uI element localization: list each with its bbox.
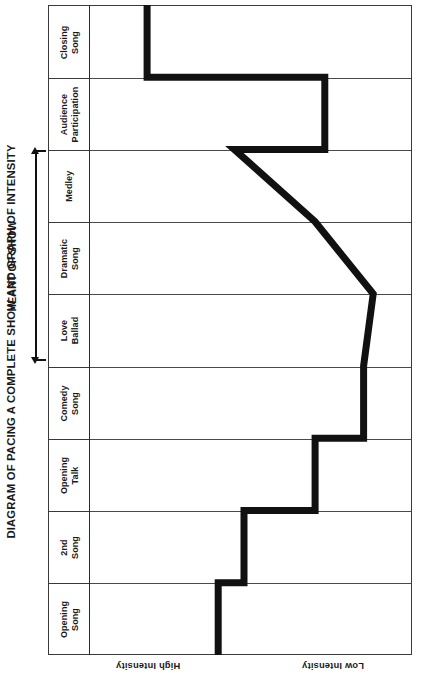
gridline [90, 439, 411, 440]
heart-of-show-bracket [26, 148, 46, 363]
segment-label-text: LoveBallad [59, 317, 80, 345]
segment-label-opening-song: OpeningSong [49, 584, 90, 656]
gridline [90, 222, 411, 223]
segment-label-medley: Medley [49, 150, 90, 222]
gridline [90, 294, 411, 295]
segment-label-text: Medley [64, 171, 75, 202]
segment-label-text: ComedySong [59, 385, 80, 421]
segment-label-text: OpeningTalk [59, 457, 80, 494]
segment-label-closing-song: ClosingSong [49, 6, 90, 78]
bracket-cap-bottom [35, 359, 46, 361]
bracket-cap-top [35, 150, 46, 152]
segment-label-strip: ClosingSongAudienceParticipationMedleyDr… [48, 5, 89, 655]
page-title: DIAGRAM OF PACING A COMPLETE SHOW AND GR… [0, 0, 22, 683]
segment-label-dramatic-song: DramaticSong [49, 223, 90, 295]
axis-label-low-intensity: Low Intensity [302, 661, 364, 671]
segment-label-text: 2ndSong [59, 536, 80, 559]
segment-label-text: DramaticSong [59, 239, 80, 278]
gridline [90, 583, 411, 584]
gridline [90, 78, 411, 79]
heart-of-show-label: HEART OF SHOW [4, 196, 20, 336]
bracket-line [35, 150, 37, 361]
segment-label-comedy-song: ComedySong [49, 367, 90, 439]
segment-label-text: OpeningSong [59, 601, 80, 638]
plot-frame [89, 5, 412, 655]
segment-label-audience-participation: AudienceParticipation [49, 78, 90, 150]
gridline [90, 150, 411, 151]
segment-label-love-ballad: LoveBallad [49, 295, 90, 367]
segment-label-opening-talk: OpeningTalk [49, 439, 90, 511]
axis-label-high-intensity: High Intensity [116, 661, 180, 671]
segment-label-text: ClosingSong [59, 25, 80, 59]
gridline [90, 367, 411, 368]
segment-label-text: AudienceParticipation [59, 86, 80, 142]
gridline [90, 511, 411, 512]
segment-label-2nd-song: 2ndSong [49, 512, 90, 584]
